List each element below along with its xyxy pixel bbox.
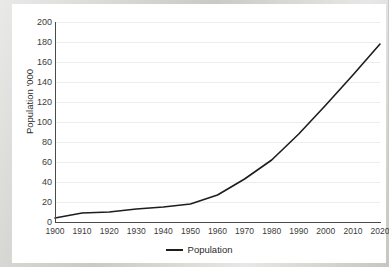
x-tick-label: 1970 (235, 226, 254, 236)
x-tick-label: 1920 (100, 226, 119, 236)
x-tick-label: 1930 (127, 226, 146, 236)
legend-label-population: Population (188, 244, 233, 255)
x-axis-line (55, 222, 381, 223)
y-tick-label: 120 (18, 98, 52, 107)
chart-legend: Population (12, 244, 386, 255)
y-tick-label: 100 (18, 118, 52, 127)
plot-area (55, 22, 380, 222)
y-tick-label: 80 (18, 138, 52, 147)
x-tick-label: 2010 (343, 226, 362, 236)
x-axis-tick-labels: 1900191019201930194019501960197019801990… (55, 226, 380, 240)
y-tick-label: 40 (18, 178, 52, 187)
x-tick-label: 1990 (289, 226, 308, 236)
x-tick-label: 1940 (154, 226, 173, 236)
x-tick-label: 2020 (371, 226, 389, 236)
y-tick-label: 20 (18, 198, 52, 207)
x-tick-label: 1950 (181, 226, 200, 236)
y-tick-label: 140 (18, 78, 52, 87)
x-tick-label: 1910 (73, 226, 92, 236)
legend-line-swatch (166, 249, 183, 251)
x-tick-label: 1980 (262, 226, 281, 236)
x-tick-label: 1900 (46, 226, 65, 236)
series-population-line (55, 22, 380, 222)
y-tick-label: 160 (18, 58, 52, 67)
y-tick-label: 60 (18, 158, 52, 167)
y-axis-line (55, 22, 56, 223)
x-tick-label: 1960 (208, 226, 227, 236)
y-tick-label: 180 (18, 38, 52, 47)
x-tick-label: 2000 (316, 226, 335, 236)
y-tick-label: 200 (18, 18, 52, 27)
chart-card: Population '000 200180160140120100806040… (12, 4, 386, 263)
